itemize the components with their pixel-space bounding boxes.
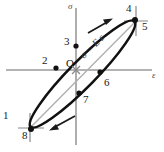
elastic-reference-line bbox=[29, 21, 136, 129]
marker-point-3 bbox=[73, 43, 78, 48]
marker-point-1-8 bbox=[28, 126, 34, 132]
point-label-7: 7 bbox=[83, 94, 89, 105]
point-label-2: 2 bbox=[42, 55, 48, 66]
marker-point-4-5 bbox=[132, 17, 138, 23]
point-label-1: 1 bbox=[3, 110, 9, 121]
point-label-6: 6 bbox=[104, 77, 110, 88]
marker-point-7 bbox=[76, 90, 81, 95]
marker-point-6 bbox=[97, 69, 102, 74]
point-label-3: 3 bbox=[64, 36, 70, 47]
loading-arrow-icon bbox=[88, 19, 113, 34]
point-label-8: 8 bbox=[22, 130, 28, 141]
marker-point-2 bbox=[53, 65, 58, 70]
point-label-4: 4 bbox=[126, 3, 132, 14]
strain-axis-label: ε bbox=[152, 71, 156, 80]
stress-axis-label: σ bbox=[68, 2, 72, 11]
origin-label: O bbox=[66, 58, 74, 69]
stress-strain-hysteresis-figure: σ ε O σ = E ε 1 2 3 4 5 6 7 8 bbox=[0, 0, 164, 152]
point-label-5: 5 bbox=[142, 21, 148, 32]
